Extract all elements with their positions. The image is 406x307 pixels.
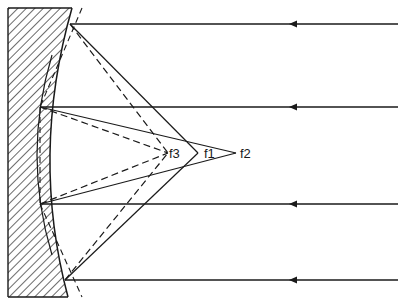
mirror-focus-diagram: [0, 0, 406, 307]
arrowhead-icons: [289, 21, 297, 284]
focal-point-f2-label: f2: [240, 147, 251, 160]
incident-rays: [40, 24, 398, 280]
focal-point-f1-label: f1: [204, 147, 215, 160]
focal-point-f3-label: f3: [169, 147, 180, 160]
